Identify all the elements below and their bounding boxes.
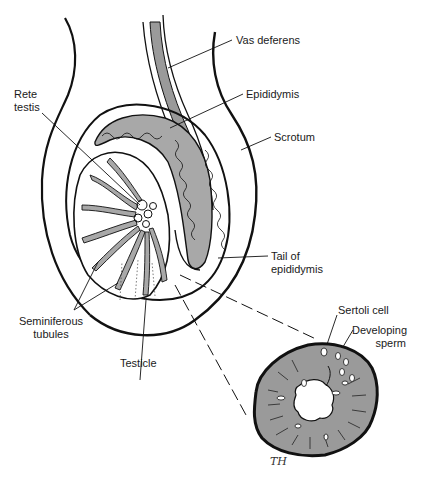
label-sertoli-cell: Sertoli cell — [338, 304, 389, 317]
tubule-lumen — [294, 380, 334, 421]
label-epididymis: Epididymis — [246, 88, 299, 101]
artist-signature: TH — [270, 455, 287, 468]
diagram-drawing — [0, 0, 421, 485]
label-seminiferous-tubules: Seminiferous tubules — [18, 315, 84, 341]
anatomy-diagram: Vas deferens Epididymis Scrotum Rete tes… — [0, 0, 421, 485]
leader-vas-deferens — [168, 40, 232, 68]
leader-tail-epididymis — [218, 256, 268, 258]
label-vas-deferens: Vas deferens — [236, 34, 300, 47]
label-developing-sperm: Developing sperm — [352, 324, 406, 350]
scrotum-outline-left — [42, 18, 90, 315]
label-rete-testis: Rete testis — [14, 88, 40, 114]
label-tail-of-epididymis: Tail of epididymis — [271, 250, 323, 276]
label-scrotum: Scrotum — [274, 131, 315, 144]
label-testicle: Testicle — [120, 357, 157, 370]
